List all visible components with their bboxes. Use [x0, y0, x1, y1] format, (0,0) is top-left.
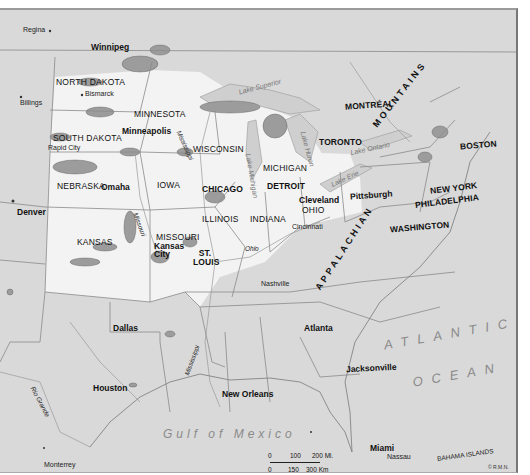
map-credit: © R.M.N. — [488, 465, 509, 470]
city-omaha: Omaha — [101, 183, 130, 192]
state-ohio: OHIO — [302, 206, 325, 215]
city-detroit: DETROIT — [267, 182, 305, 191]
scale-km-0: 0 — [268, 466, 272, 473]
state-wisconsin: WISCONSIN — [193, 145, 244, 154]
state-indiana: INDIANA — [250, 215, 286, 224]
label-gulf-of-mexico: Gulf of Mexico — [163, 428, 296, 440]
city-nassau: Nassau — [387, 453, 411, 460]
city-minneapolis: Minneapolis — [122, 127, 171, 136]
city-monterrey: Monterrey — [44, 461, 76, 468]
state-nebraska: NEBRASKA — [57, 182, 105, 191]
scale-mi-200: 200 Mi. — [312, 452, 333, 459]
state-south-dakota: SOUTH DAKOTA — [53, 134, 122, 143]
scale-mi-0: 0 — [268, 452, 272, 459]
city-bismarck: Bismarck — [85, 90, 114, 97]
city-atlanta: Atlanta — [304, 324, 333, 333]
city-winnipeg: Winnipeg — [91, 43, 129, 52]
city-cleveland: Cleveland — [299, 196, 339, 205]
city-st-louis: ST. LOUIS — [193, 249, 217, 267]
page-margin — [519, 8, 530, 475]
river-ohio: Ohio — [245, 246, 259, 253]
scale-km-300: 300 Km — [306, 466, 328, 473]
city-rapid-city: Rapid City — [48, 144, 80, 151]
scale-km-150: 150 — [288, 466, 299, 473]
city-miami: Miami — [370, 444, 394, 453]
city-new-orleans: New Orleans — [222, 390, 274, 399]
city-nashville: Nashville — [261, 280, 289, 287]
city-cincinnati: Cincinnati — [292, 223, 323, 230]
scale-line — [270, 462, 320, 463]
city-dallas: Dallas — [113, 324, 138, 333]
city-kansas-city: Kansas City — [154, 242, 178, 258]
city-toronto: TORONTO — [319, 138, 362, 147]
city-denver: Denver — [17, 208, 46, 217]
scale-mi-100: 100 — [290, 452, 301, 459]
city-regina: Regina — [23, 26, 45, 33]
scale-bar: 0 100 200 Mi. 0 150 300 Km — [268, 450, 348, 473]
state-illinois: ILLINOIS — [202, 215, 239, 224]
state-minnesota: MINNESOTA — [134, 110, 186, 119]
map-frame: Regina Winnipeg MONTRÉAL TORONTO NORTH D… — [0, 8, 518, 473]
state-michigan: MICHIGAN — [263, 164, 307, 173]
state-iowa: IOWA — [157, 181, 180, 190]
city-chicago: CHICAGO — [202, 185, 243, 194]
city-billings: Billings — [20, 99, 42, 106]
state-kansas: KANSAS — [77, 238, 113, 247]
city-houston: Houston — [93, 384, 127, 393]
state-north-dakota: NORTH DAKOTA — [56, 78, 125, 87]
